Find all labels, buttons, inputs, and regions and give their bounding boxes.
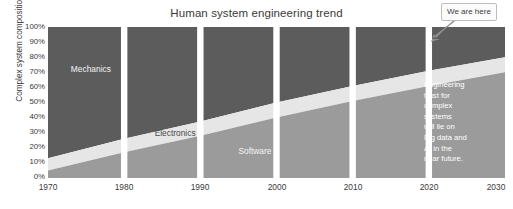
y-axis-tick-list: 100% 90% 80% 70% 60% 50% 40% 30% 20% 10%… (14, 22, 45, 183)
x-axis-tick: 1990 (177, 182, 223, 192)
y-axis-tick: 50% (14, 97, 45, 107)
slab-separator (121, 27, 127, 178)
y-axis-tick: 80% (14, 52, 45, 62)
page-title: Human system engineering trend (0, 7, 513, 19)
chart-root: Human system engineering trend Complex s… (0, 0, 513, 209)
x-axis-tick: 1970 (25, 182, 71, 192)
x-axis-tick: 1980 (101, 182, 147, 192)
x-axis-tick: 2030 (473, 182, 513, 192)
y-axis-tick: 40% (14, 112, 45, 122)
y-axis-tick: 90% (14, 37, 45, 47)
y-axis-tick: 10% (14, 157, 45, 167)
x-axis-tick: 2000 (254, 182, 300, 192)
x-axis-tick-list: 1970 1980 1990 2000 2010 2020 2030 (0, 182, 513, 198)
y-axis-tick: 0% (14, 172, 45, 182)
x-axis-tick: 2010 (330, 182, 376, 192)
slab-separator (273, 27, 279, 178)
y-axis-tick: 70% (14, 67, 45, 77)
x-axis-tick: 2020 (406, 182, 452, 192)
slab-separator (349, 27, 355, 178)
future-note-annotation: Engineering trust for complex systems wi… (424, 80, 504, 165)
y-axis-tick: 100% (14, 22, 45, 32)
we-are-here-callout[interactable]: We are here (441, 3, 497, 21)
slab-separator (197, 27, 203, 178)
y-axis-tick: 60% (14, 82, 45, 92)
y-axis-tick: 20% (14, 142, 45, 152)
y-axis-tick: 30% (14, 127, 45, 137)
